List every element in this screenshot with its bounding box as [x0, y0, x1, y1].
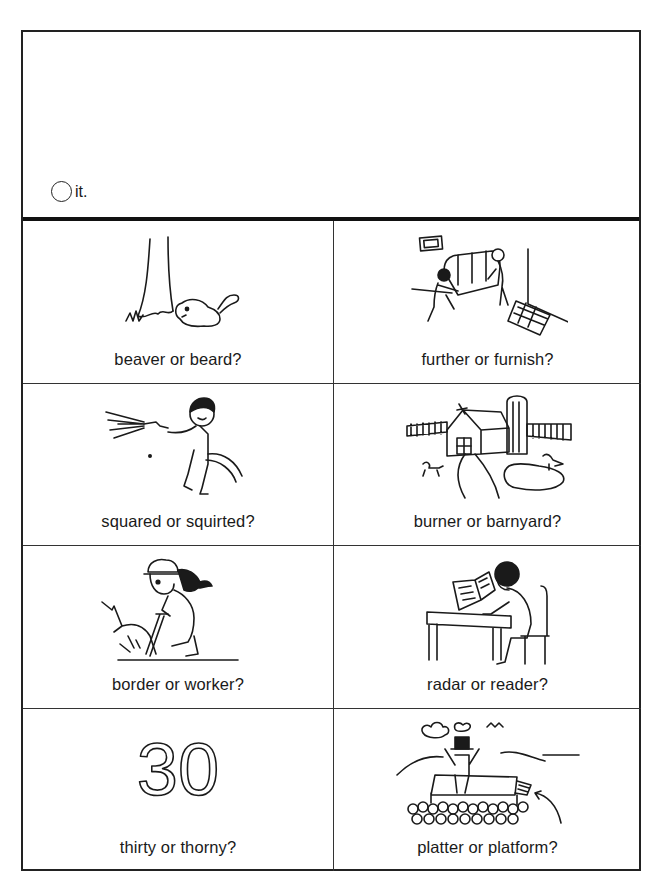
instruction-text: it. [75, 183, 87, 201]
svg-text:30: 30 [137, 728, 219, 811]
item-further-or-furnish[interactable]: further or furnish? [334, 221, 641, 384]
number-30-icon: 30 [123, 719, 233, 819]
item-thirty-or-thorny[interactable]: 30 thirty or thorny? [23, 709, 334, 871]
item-label: beaver or beard? [23, 350, 333, 369]
item-label: border or worker? [23, 675, 333, 694]
beaver-by-tree-icon [98, 231, 258, 336]
item-label: squared or squirted? [23, 512, 333, 531]
item-label: burner or barnyard? [334, 512, 641, 531]
instruction-line: it. [51, 181, 87, 202]
item-border-or-worker[interactable]: border or worker? [23, 546, 334, 709]
instruction-panel: it. [23, 32, 639, 221]
boy-with-hose-icon [98, 394, 258, 504]
worksheet: it. beaver or beard? [21, 30, 641, 871]
man-on-stage-platform-icon [393, 719, 583, 831]
picture-grid: beaver or beard? further or furnish? [23, 221, 639, 871]
item-label: thirty or thorny? [23, 838, 333, 857]
boy-reading-at-desk-icon [413, 556, 563, 668]
item-platter-or-platform[interactable]: platter or platform? [334, 709, 641, 871]
farm-barn-silo-icon [403, 394, 573, 504]
item-label: platter or platform? [334, 838, 641, 857]
blank-circle-icon [51, 181, 72, 202]
item-beaver-or-beard[interactable]: beaver or beard? [23, 221, 334, 384]
item-label: further or furnish? [334, 350, 641, 369]
item-radar-or-reader[interactable]: radar or reader? [334, 546, 641, 709]
people-moving-couch-icon [408, 231, 568, 336]
item-label: radar or reader? [334, 675, 641, 694]
item-burner-or-barnyard[interactable]: burner or barnyard? [334, 384, 641, 546]
worker-with-jackhammer-icon [98, 556, 258, 668]
item-squared-or-squirted[interactable]: squared or squirted? [23, 384, 334, 546]
